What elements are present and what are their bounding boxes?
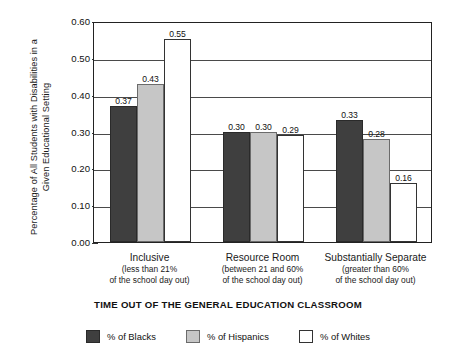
bar-value-label: 0.55 — [160, 30, 195, 39]
legend-swatch-icon — [186, 330, 200, 343]
bar — [390, 183, 417, 242]
legend-item[interactable]: % of Whites — [299, 330, 370, 343]
bar — [223, 132, 250, 243]
y-axis-tick-label: 0.50 — [48, 54, 90, 64]
x-axis-category-sublabel: of the school day out) — [296, 275, 456, 286]
bar-value-label: 0.28 — [359, 130, 394, 139]
plot-area: 0.370.430.550.300.300.290.330.280.16 — [93, 22, 432, 243]
bar — [250, 132, 277, 243]
legend-label: % of Hispanics — [207, 331, 269, 342]
bar-group: 0.300.300.29 — [223, 23, 304, 242]
x-axis-category-sublabel: (greater than 60% — [296, 264, 456, 275]
legend-swatch-icon — [299, 330, 313, 343]
x-axis-title: TIME OUT OF THE GENERAL EDUCATION CLASSR… — [0, 299, 456, 310]
y-axis-tick-label: 0.10 — [48, 201, 90, 211]
bar-chart-figure: Percentage of All Students with Disabili… — [0, 0, 456, 360]
legend-swatch-icon — [86, 330, 100, 343]
y-axis-tick-label: 0.00 — [48, 238, 90, 248]
bar-group: 0.330.280.16 — [336, 23, 417, 242]
bar-value-label: 0.43 — [133, 75, 168, 84]
legend-label: % of Whites — [320, 331, 370, 342]
legend-item[interactable]: % of Hispanics — [186, 330, 269, 343]
y-axis-tick-label: 0.40 — [48, 91, 90, 101]
y-axis-tick-label: 0.60 — [48, 17, 90, 27]
bar-value-label: 0.16 — [386, 174, 421, 183]
bar — [363, 139, 390, 242]
y-axis-tick-label: 0.20 — [48, 164, 90, 174]
bar — [110, 106, 137, 242]
bar-value-label: 0.33 — [332, 111, 367, 120]
legend-item[interactable]: % of Blacks — [86, 330, 156, 343]
bar — [277, 135, 304, 242]
legend-label: % of Blacks — [107, 331, 156, 342]
bar-value-label: 0.37 — [106, 97, 141, 106]
y-axis-tick-label: 0.30 — [48, 128, 90, 138]
bar-group: 0.370.430.55 — [110, 23, 191, 242]
x-axis-category-name: Substantially Separate — [296, 251, 456, 264]
chart-legend: % of Blacks% of Hispanics% of Whites — [0, 330, 456, 343]
y-axis-tick-mark — [92, 243, 98, 244]
x-axis-category: Substantially Separate(greater than 60%o… — [296, 251, 456, 285]
y-axis-title-line-1: Percentage of All Students with Disabili… — [28, 39, 40, 235]
bar — [137, 84, 164, 242]
bar — [164, 39, 191, 242]
bar-value-label: 0.29 — [273, 126, 308, 135]
